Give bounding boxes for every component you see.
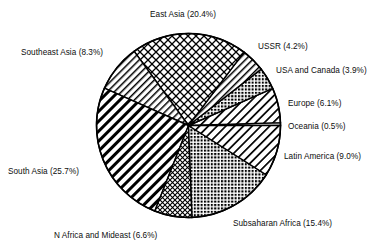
slice-label-europe: Europe (6.1%): [288, 99, 341, 109]
slice-label-n-africa-and-mideast: N Africa and Mideast (6.6%): [54, 231, 157, 241]
slice-label-southeast-asia: Southeast Asia (8.3%): [21, 48, 103, 58]
slice-label-south-asia: South Asia (25.7%): [8, 167, 79, 177]
slice-label-ussr: USSR (4.2%): [258, 42, 308, 52]
slice-label-east-asia: East Asia (20.4%): [150, 10, 216, 20]
pie-chart: East Asia (20.4%) USSR (4.2%) USA and Ca…: [0, 0, 388, 249]
pie-slice-group: [97, 34, 281, 218]
slice-label-usa-and-canada: USA and Canada (3.9%): [276, 66, 367, 76]
slice-label-subsaharan-africa: Subsaharan Africa (15.4%): [233, 219, 332, 229]
slice-label-latin-america: Latin America (9.0%): [284, 152, 361, 162]
slice-label-oceania: Oceania (0.5%): [288, 122, 346, 132]
